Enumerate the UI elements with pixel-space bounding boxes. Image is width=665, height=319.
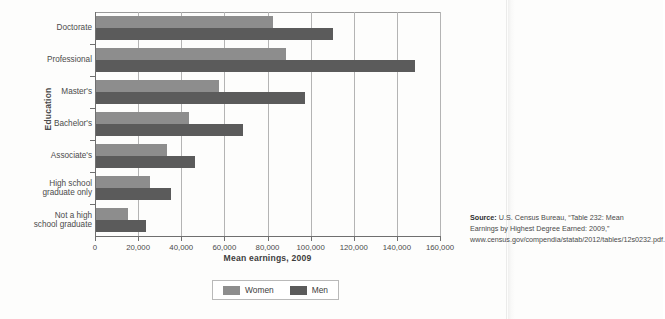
y-axis-tick-label: Bachelor's bbox=[26, 119, 92, 129]
y-axis-tick-label: Professional bbox=[26, 55, 92, 65]
bar-men bbox=[96, 156, 195, 168]
x-axis-tick bbox=[224, 236, 225, 241]
gridline bbox=[354, 12, 355, 236]
x-axis-tick bbox=[95, 236, 96, 241]
y-axis-tick bbox=[90, 204, 95, 205]
legend-label-women: Women bbox=[245, 285, 274, 295]
x-axis-tick-label: 20,000 bbox=[126, 243, 150, 252]
bar-women bbox=[96, 80, 219, 92]
source-note: Source: U.S. Census Bureau, “Table 232: … bbox=[470, 212, 646, 246]
y-axis-tick-label: Master's bbox=[26, 87, 92, 97]
bar-women bbox=[96, 48, 286, 60]
y-axis-tick-label-line: school graduate bbox=[26, 220, 92, 230]
page-gutter-line bbox=[506, 0, 507, 319]
y-axis-tick bbox=[90, 76, 95, 77]
y-axis-tick-label-line: Bachelor's bbox=[26, 119, 92, 129]
y-axis-tick bbox=[90, 108, 95, 109]
y-axis-tick-label-line: Associate's bbox=[26, 151, 92, 161]
x-axis-tick bbox=[181, 236, 182, 241]
x-axis-tick-label: 0 bbox=[93, 243, 97, 252]
gridline bbox=[268, 12, 269, 236]
x-axis-title: Mean earnings, 2009 bbox=[95, 253, 440, 263]
bar-women bbox=[96, 144, 167, 156]
y-axis-tick-label: Associate's bbox=[26, 151, 92, 161]
y-axis-tick-label: Not a highschool graduate bbox=[26, 211, 92, 230]
x-axis-tick bbox=[268, 236, 269, 241]
y-axis-tick-label-line: Not a high bbox=[26, 211, 92, 221]
bar-men bbox=[96, 124, 243, 136]
x-axis-tick bbox=[397, 236, 398, 241]
x-axis-tick-label: 160,000 bbox=[426, 243, 454, 252]
gridline bbox=[311, 12, 312, 236]
y-axis-tick-label-line: High school bbox=[26, 179, 92, 189]
x-axis-tick-label: 80,000 bbox=[256, 243, 280, 252]
bar-women bbox=[96, 112, 189, 124]
legend-swatch-women bbox=[223, 286, 240, 295]
bar-men bbox=[96, 28, 333, 40]
plot-area: 020,00040,00060,00080,000100,000120,0001… bbox=[95, 12, 440, 236]
bar-chart: Education DoctorateProfessionalMaster'sB… bbox=[0, 8, 505, 313]
y-axis-tick bbox=[90, 140, 95, 141]
bar-men bbox=[96, 92, 305, 104]
bar-women bbox=[96, 176, 150, 188]
gridline bbox=[440, 12, 441, 236]
bar-women bbox=[96, 16, 273, 28]
legend-item-men[interactable]: Men bbox=[290, 285, 328, 295]
y-axis-tick-label: High schoolgraduate only bbox=[26, 179, 92, 198]
x-axis-tick bbox=[311, 236, 312, 241]
y-axis-tick-label-line: Doctorate bbox=[26, 23, 92, 33]
legend-item-women[interactable]: Women bbox=[223, 285, 274, 295]
x-axis-tick-label: 60,000 bbox=[212, 243, 236, 252]
cropped-caption bbox=[10, 0, 430, 8]
x-axis-tick bbox=[354, 236, 355, 241]
y-axis-tick-labels: DoctorateProfessionalMaster'sBachelor'sA… bbox=[26, 12, 92, 236]
x-axis-tick-label: 40,000 bbox=[169, 243, 193, 252]
y-axis-tick bbox=[90, 44, 95, 45]
y-axis-tick-label: Doctorate bbox=[26, 23, 92, 33]
x-axis-tick bbox=[138, 236, 139, 241]
y-axis-tick-label-line: graduate only bbox=[26, 188, 92, 198]
legend-swatch-men bbox=[290, 286, 307, 295]
source-note-label: Source: bbox=[470, 213, 497, 222]
x-axis-tick-label: 140,000 bbox=[383, 243, 411, 252]
page-gutter-shadow bbox=[508, 0, 515, 319]
bar-women bbox=[96, 208, 128, 220]
y-axis-tick-label-line: Professional bbox=[26, 55, 92, 65]
gridline bbox=[397, 12, 398, 236]
y-axis-tick bbox=[90, 172, 95, 173]
bar-men bbox=[96, 220, 146, 232]
x-axis-tick-label: 100,000 bbox=[297, 243, 325, 252]
bar-men bbox=[96, 60, 415, 72]
chart-legend: Women Men bbox=[212, 280, 339, 300]
y-axis-tick-label-line: Master's bbox=[26, 87, 92, 97]
x-axis-tick-label: 120,000 bbox=[340, 243, 368, 252]
x-axis-tick bbox=[440, 236, 441, 241]
bar-men bbox=[96, 188, 171, 200]
source-note-text: U.S. Census Bureau, “Table 232: Mean Ear… bbox=[470, 213, 665, 244]
legend-label-men: Men bbox=[312, 285, 328, 295]
